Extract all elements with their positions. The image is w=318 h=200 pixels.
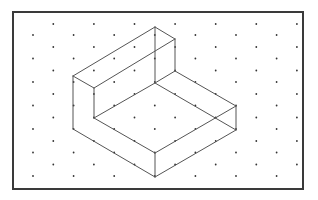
grid-dot [255,70,257,72]
grid-dot [73,175,75,177]
grid-dot [113,175,115,177]
grid-dot [93,23,95,25]
grid-dot [255,93,257,95]
grid-dot [52,117,54,119]
grid-dot [134,23,136,25]
grid-dot [215,164,217,166]
grid-dot [276,105,278,107]
grid-dot [174,23,176,25]
grid-dot [255,140,257,142]
grid-dot [195,58,197,60]
grid-dot [215,70,217,72]
grid-dot [235,81,237,83]
grid-dot [255,117,257,119]
grid-dot [113,58,115,60]
grid-dot [235,34,237,36]
grid-dot [276,58,278,60]
grid-dot [235,152,237,154]
grid-dot [32,175,34,177]
grid-dot [296,117,298,119]
grid-dot [113,81,115,83]
grid-dot [255,46,257,48]
grid-dot [276,81,278,83]
grid-dot [32,128,34,130]
grid-dot [134,46,136,48]
grid-dot [93,70,95,72]
grid-dot [134,70,136,72]
grid-dot [296,140,298,142]
canvas-background [0,0,318,200]
grid-dot [276,152,278,154]
grid-dot [93,46,95,48]
grid-dot [52,93,54,95]
grid-dot [276,128,278,130]
grid-dot [296,23,298,25]
grid-dot [52,46,54,48]
grid-dot [32,58,34,60]
grid-dot [73,58,75,60]
grid-dot [195,175,197,177]
isometric-drawing-canvas [0,0,318,200]
grid-dot [52,70,54,72]
grid-dot [93,164,95,166]
grid-dot [134,117,136,119]
grid-dot [255,164,257,166]
grid-dot [32,105,34,107]
grid-dot [215,46,217,48]
grid-dot [32,34,34,36]
grid-dot [255,23,257,25]
grid-dot [296,70,298,72]
grid-dot [296,93,298,95]
grid-dot [174,117,176,119]
grid-dot [73,34,75,36]
grid-dot [235,175,237,177]
grid-dot [52,140,54,142]
grid-dot [215,23,217,25]
grid-dot [296,46,298,48]
grid-dot [32,81,34,83]
grid-dot [52,23,54,25]
grid-dot [296,164,298,166]
grid-dot [52,164,54,166]
grid-dot [195,34,197,36]
grid-dot [276,34,278,36]
grid-dot [32,152,34,154]
grid-dot [73,152,75,154]
grid-dot [235,58,237,60]
grid-dot [113,34,115,36]
grid-dot [276,175,278,177]
grid-dot [154,105,156,107]
grid-dot [154,128,156,130]
